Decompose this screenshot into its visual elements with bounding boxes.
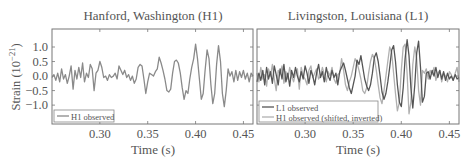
legend-label-h1: H1 observed <box>71 112 115 122</box>
plot-area-h1 <box>52 44 253 107</box>
legend-l1: L1 observed H1 observed (shifted, invert… <box>259 101 382 123</box>
x-axis-label-l1: Time (s) <box>336 142 380 157</box>
panel-h1: Hanford, Washington (H1) 1.00.50.0−0.5−1… <box>25 8 254 157</box>
panel-l1: Livingston, Louisiana (L1) 0.300.350.400… <box>257 8 460 157</box>
x-tick-label: 0.30 <box>294 127 316 141</box>
x-tick-label: 0.35 <box>137 127 159 141</box>
figure: Strain (10−21) Hanford, Washington (H1) … <box>0 0 469 162</box>
y-axis-label: Strain (10−21) <box>7 43 23 110</box>
x-axis-label-h1: Time (s) <box>131 142 175 157</box>
y-tick-label: −0.5 <box>25 84 48 98</box>
x-tick-label: 0.45 <box>232 127 254 141</box>
legend-h1: H1 observed <box>54 110 115 122</box>
x-tick-label: 0.30 <box>89 127 111 141</box>
x-tick-label: 0.40 <box>185 127 207 141</box>
x-tick-label: 0.35 <box>342 127 364 141</box>
legend-label-l1: L1 observed <box>276 103 319 113</box>
legend-label-h1-shifted: H1 observed (shifted, inverted) <box>276 113 382 123</box>
panel-title-h1: Hanford, Washington (H1) <box>83 8 222 23</box>
y-tick-label: 1.0 <box>32 40 48 54</box>
x-tick-label: 0.40 <box>390 127 412 141</box>
panel-title-l1: Livingston, Louisiana (L1) <box>288 8 428 23</box>
series-line <box>52 44 253 107</box>
y-tick-label: 0.5 <box>32 55 48 69</box>
y-tick-label: 0.0 <box>32 69 48 83</box>
y-tick-label: −1.0 <box>25 98 48 112</box>
x-tick-label: 0.45 <box>438 127 460 141</box>
series-line <box>257 40 459 108</box>
